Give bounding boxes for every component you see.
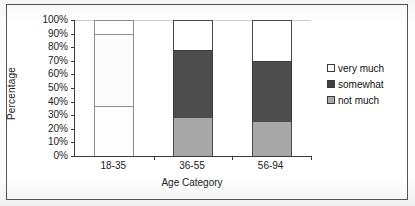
bar-segment-not-much — [252, 121, 292, 156]
legend-swatch-icon — [327, 80, 335, 88]
y-axis-tick-label: 10% — [48, 137, 68, 147]
legend-label: very much — [338, 63, 384, 74]
y-axis-tick-mark — [71, 115, 75, 116]
bar-segment-somewhat — [94, 34, 134, 106]
bar-segment-very-much — [252, 20, 292, 61]
bar-column — [94, 20, 134, 156]
y-axis-tick-mark — [71, 142, 75, 143]
bar-segment-not-much — [94, 106, 134, 156]
y-axis-tick-mark — [71, 88, 75, 89]
legend-item[interactable]: somewhat — [327, 76, 411, 92]
y-axis-tick-mark — [71, 47, 75, 48]
legend-label: not much — [338, 95, 379, 106]
bar-segment-not-much — [173, 117, 213, 156]
y-axis-title-text: Percentage — [7, 66, 18, 119]
bar-segment-somewhat — [173, 50, 213, 117]
x-axis-tick-mark — [311, 156, 312, 160]
bar-segment-very-much — [94, 20, 134, 34]
y-axis-tick-mark — [71, 20, 75, 21]
y-axis-tick-mark — [71, 102, 75, 103]
y-axis-tick-label: 90% — [48, 29, 68, 39]
bar-segment-somewhat — [252, 61, 292, 121]
y-axis-tick-label: 20% — [48, 124, 68, 134]
x-axis-tick-labels: 18-3536-5556-94 — [74, 160, 310, 174]
legend-swatch-icon — [327, 96, 335, 104]
y-axis-tick-label: 70% — [48, 56, 68, 66]
bar-column — [252, 20, 292, 156]
x-axis-title: Age Category — [74, 177, 310, 188]
y-axis-tick-label: 60% — [48, 69, 68, 79]
x-axis-tick-label: 36-55 — [157, 160, 227, 171]
x-axis-tick-label: 56-94 — [236, 160, 306, 171]
legend-swatch-icon — [327, 64, 335, 72]
legend-label: somewhat — [338, 79, 384, 90]
y-axis-tick-labels: 0%10%20%30%40%50%60%70%80%90%100% — [20, 15, 72, 161]
legend-item[interactable]: not much — [327, 92, 411, 108]
y-axis-tick-mark — [71, 34, 75, 35]
bar-segment-very-much — [173, 20, 213, 50]
y-axis-tick-label: 50% — [48, 83, 68, 93]
y-axis-tick-label: 100% — [42, 15, 68, 25]
plot-area — [74, 20, 311, 157]
y-axis-tick-label: 0% — [54, 151, 68, 161]
y-axis-tick-label: 80% — [48, 42, 68, 52]
y-axis-tick-mark — [71, 61, 75, 62]
y-axis-tick-mark — [71, 74, 75, 75]
y-axis-tick-mark — [71, 129, 75, 130]
y-axis-tick-label: 30% — [48, 110, 68, 120]
chart-legend: very muchsomewhatnot much — [327, 60, 411, 108]
bar-column — [173, 20, 213, 156]
y-axis-tick-mark — [71, 156, 75, 157]
x-axis-tick-label: 18-35 — [78, 160, 148, 171]
y-axis-title: Percentage — [4, 38, 20, 148]
legend-item[interactable]: very much — [327, 60, 411, 76]
y-axis-tick-label: 40% — [48, 97, 68, 107]
chart-figure: Percentage 0%10%20%30%40%50%60%70%80%90%… — [0, 0, 415, 206]
